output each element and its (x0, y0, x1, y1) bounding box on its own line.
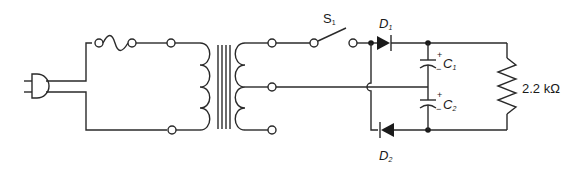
capacitor-c1-label: C1 (443, 56, 456, 71)
terminal-secondary-top (268, 39, 276, 47)
resistor-icon (498, 58, 516, 114)
capacitor-c1-plus: + (437, 50, 442, 60)
diode-d1-label: D1 (379, 16, 392, 31)
fuse-icon (95, 36, 136, 51)
terminal-secondary-bottom (268, 126, 276, 134)
capacitor-c1-minus: − (436, 64, 441, 74)
resistor-label: 2.2 kΩ (522, 81, 560, 96)
terminal-secondary-center (268, 83, 276, 91)
switch-s1 (310, 28, 357, 47)
switch-label: S1 (323, 11, 336, 26)
diode-d2-label: D2 (379, 148, 392, 163)
diode-d1-icon (377, 35, 391, 51)
plug-wire-top (46, 43, 92, 81)
transformer-icon (200, 43, 245, 130)
capacitor-c2-label: C2 (443, 97, 456, 112)
capacitor-c2-plus: + (437, 90, 442, 100)
terminal-primary-top (167, 39, 175, 47)
voltage-doubler-circuit: S1 D1 D2 + − C1 + − C2 2.2 kΩ (0, 0, 583, 169)
terminal-primary-bottom (168, 126, 176, 134)
plug-wire-bottom (46, 92, 167, 130)
capacitor-c2-minus: − (436, 104, 441, 114)
diode-d2-icon (380, 122, 394, 138)
ac-plug-icon (24, 74, 49, 98)
